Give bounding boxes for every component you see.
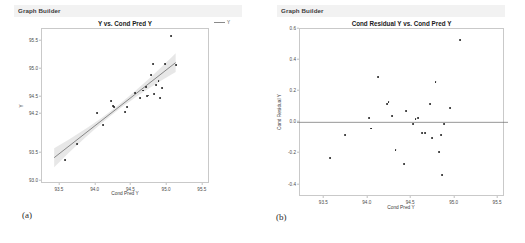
y-axis-tick-mark xyxy=(39,68,41,69)
data-point[interactable] xyxy=(76,143,78,145)
x-axis-title-b: Cond Pred Y xyxy=(387,205,414,210)
data-point[interactable] xyxy=(443,123,445,125)
data-point[interactable] xyxy=(96,113,98,115)
data-point[interactable] xyxy=(134,92,136,94)
y-axis-tick-label: 0.2 xyxy=(283,88,296,93)
data-point[interactable] xyxy=(148,95,150,97)
y-axis-tick-label: 93.0 xyxy=(25,178,38,183)
plot-overlay-b xyxy=(300,29,505,197)
line-swatch-icon xyxy=(214,22,225,23)
x-axis-tick-label: 94.0 xyxy=(362,200,371,205)
x-axis-tick-mark xyxy=(166,183,167,185)
regression-line xyxy=(54,63,176,158)
data-point[interactable] xyxy=(145,86,147,88)
data-point[interactable] xyxy=(158,80,160,82)
data-point[interactable] xyxy=(139,97,141,99)
y-axis-tick-mark xyxy=(297,152,299,153)
data-point[interactable] xyxy=(175,64,177,66)
x-axis-tick-mark xyxy=(410,196,411,198)
y-axis-tick-label: -0.2 xyxy=(283,150,296,155)
graph-builder-panel-b: Graph Builder Cond Residual Y vs. Cond P… xyxy=(263,0,525,243)
data-point[interactable] xyxy=(421,132,423,134)
window-title-b: Graph Builder xyxy=(281,5,324,17)
y-axis-tick-mark xyxy=(297,183,299,184)
x-axis-tick-mark xyxy=(323,196,324,198)
y-axis-tick-label: 0.4 xyxy=(283,57,296,62)
chart-title-b: Cond Residual Y vs. Cond Pred Y xyxy=(299,20,504,27)
data-point[interactable] xyxy=(329,157,331,159)
data-point[interactable] xyxy=(395,149,397,151)
y-axis-tick-label: 0.0 xyxy=(283,119,296,124)
data-point[interactable] xyxy=(388,101,390,103)
y-axis-tick-mark xyxy=(297,90,299,91)
legend-a: Y xyxy=(214,20,230,25)
y-axis-title-b: Cond Residual Y xyxy=(277,94,282,130)
chart-title-a: Y vs. Cond Pred Y xyxy=(41,20,209,27)
y-axis-tick-label: -0.4 xyxy=(283,181,296,186)
y-axis-title-a: Y xyxy=(19,104,24,107)
data-point[interactable] xyxy=(113,106,115,108)
x-axis-tick-label: 95.5 xyxy=(493,200,502,205)
data-point[interactable] xyxy=(429,103,431,105)
data-point[interactable] xyxy=(440,134,442,136)
subfigure-caption-b: (b) xyxy=(276,212,287,222)
data-point[interactable] xyxy=(152,63,154,65)
plot-area-a[interactable] xyxy=(41,28,209,183)
x-axis-tick-label: 93.5 xyxy=(54,187,63,192)
data-point[interactable] xyxy=(124,111,126,113)
data-point[interactable] xyxy=(126,106,128,108)
data-point[interactable] xyxy=(142,90,144,92)
data-point[interactable] xyxy=(424,132,426,134)
data-point[interactable] xyxy=(431,137,433,139)
data-point[interactable] xyxy=(412,123,414,125)
x-axis-title-a: Cond Pred Y xyxy=(111,191,138,196)
data-point[interactable] xyxy=(159,97,161,99)
figure-container: Graph Builder Y vs. Cond Pred Y Y 95.595… xyxy=(0,0,525,243)
y-axis-tick-mark xyxy=(39,180,41,181)
data-point[interactable] xyxy=(155,84,157,86)
data-point[interactable] xyxy=(64,159,66,161)
data-point[interactable] xyxy=(377,76,379,78)
data-point[interactable] xyxy=(150,74,152,76)
data-point[interactable] xyxy=(369,117,371,119)
graph-builder-panel-a: Graph Builder Y vs. Cond Pred Y Y 95.595… xyxy=(0,0,262,243)
x-axis-tick-label: 93.5 xyxy=(319,200,328,205)
data-point[interactable] xyxy=(442,174,444,176)
x-axis-tick-label: 95.0 xyxy=(449,200,458,205)
legend-label-y: Y xyxy=(227,20,230,25)
y-axis-tick-label: 95.0 xyxy=(25,66,38,71)
x-axis-tick-label: 94.0 xyxy=(90,187,99,192)
data-point[interactable] xyxy=(417,117,419,119)
data-point[interactable] xyxy=(170,35,172,37)
y-axis-tick-mark xyxy=(297,121,299,122)
data-point[interactable] xyxy=(405,110,407,112)
x-axis-tick-mark xyxy=(453,196,454,198)
data-point[interactable] xyxy=(153,94,155,96)
y-axis-tick-mark xyxy=(39,113,41,114)
data-point[interactable] xyxy=(102,124,104,126)
data-point[interactable] xyxy=(415,118,417,120)
data-point[interactable] xyxy=(164,63,166,65)
x-axis-tick-label: 95.0 xyxy=(162,187,171,192)
data-point[interactable] xyxy=(110,100,112,102)
x-axis-tick-mark xyxy=(59,183,60,185)
data-point[interactable] xyxy=(438,151,440,153)
x-axis-tick-mark xyxy=(366,196,367,198)
x-axis-tick-mark xyxy=(202,183,203,185)
y-axis-tick-label: 0.6 xyxy=(283,26,296,31)
x-axis-tick-mark xyxy=(130,183,131,185)
data-point[interactable] xyxy=(161,87,163,89)
data-point[interactable] xyxy=(391,115,393,117)
data-point[interactable] xyxy=(449,107,451,109)
data-point[interactable] xyxy=(459,39,461,41)
data-point[interactable] xyxy=(435,81,437,83)
data-point[interactable] xyxy=(344,134,346,136)
y-axis-tick-mark xyxy=(39,96,41,97)
plot-area-b[interactable] xyxy=(299,28,504,196)
y-axis-tick-label: 94.5 xyxy=(25,94,38,99)
x-axis-tick-label: 95.5 xyxy=(197,187,206,192)
data-point[interactable] xyxy=(370,128,372,130)
subfigure-caption-a: (a) xyxy=(22,210,32,220)
data-point[interactable] xyxy=(403,163,405,165)
x-axis-tick-mark xyxy=(497,196,498,198)
